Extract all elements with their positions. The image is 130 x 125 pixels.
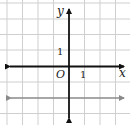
origin-label: O <box>56 68 65 81</box>
grid <box>0 0 130 125</box>
x-axis-label: x <box>119 66 126 80</box>
y-tick-label-1: 1 <box>57 46 63 57</box>
y-axis-label: y <box>56 4 64 18</box>
coordinate-graph: y x O 1 1 <box>0 0 130 125</box>
x-tick-label-1: 1 <box>80 69 86 80</box>
